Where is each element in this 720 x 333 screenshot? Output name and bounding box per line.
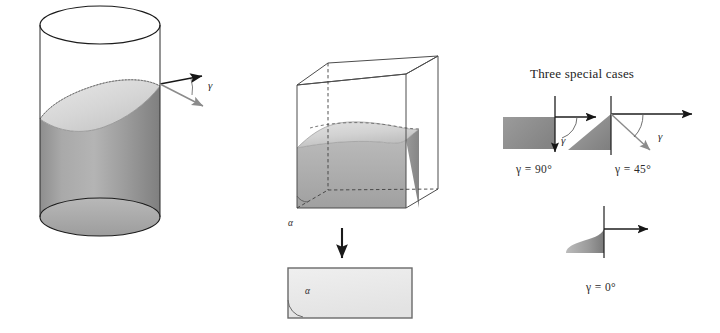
case-90-caption: γ = 90°	[516, 163, 552, 175]
cylinder-bottom-ellipse	[40, 198, 160, 236]
case-90-liquid	[503, 117, 555, 149]
case-gamma-0	[566, 206, 648, 258]
case-0-liquid	[566, 229, 604, 253]
plan-rectangle-alpha-label: α	[305, 286, 310, 296]
case-45-gamma-arc	[634, 114, 643, 137]
case-45-gamma-label: γ	[658, 130, 662, 142]
cylinder-tangent-arrow	[160, 76, 202, 84]
case-90-gamma-label: γ	[561, 134, 565, 146]
case-gamma-45	[568, 96, 692, 155]
case-45-caption: γ = 45°	[615, 163, 651, 175]
special-cases-title: Three special cases	[530, 66, 634, 82]
cylinder-wall-direction-arrow	[160, 84, 203, 106]
case-45-tangent-arrow	[611, 114, 650, 150]
cube-top-face-edges	[297, 56, 438, 85]
cylinder-gamma-arc	[191, 79, 193, 95]
case-45-liquid	[568, 114, 611, 150]
cube-panel	[288, 56, 438, 318]
case-0-caption: γ = 0°	[586, 281, 616, 293]
cube-liquid-front-face	[297, 140, 406, 208]
special-cases-panel	[503, 96, 692, 258]
cylinder-top-ellipse	[40, 6, 160, 44]
cube-liquid-right-face	[406, 129, 419, 208]
cube-alpha-label: α	[288, 218, 293, 228]
cylinder-gamma-label: γ	[208, 79, 212, 91]
cylinder-panel	[40, 6, 203, 236]
